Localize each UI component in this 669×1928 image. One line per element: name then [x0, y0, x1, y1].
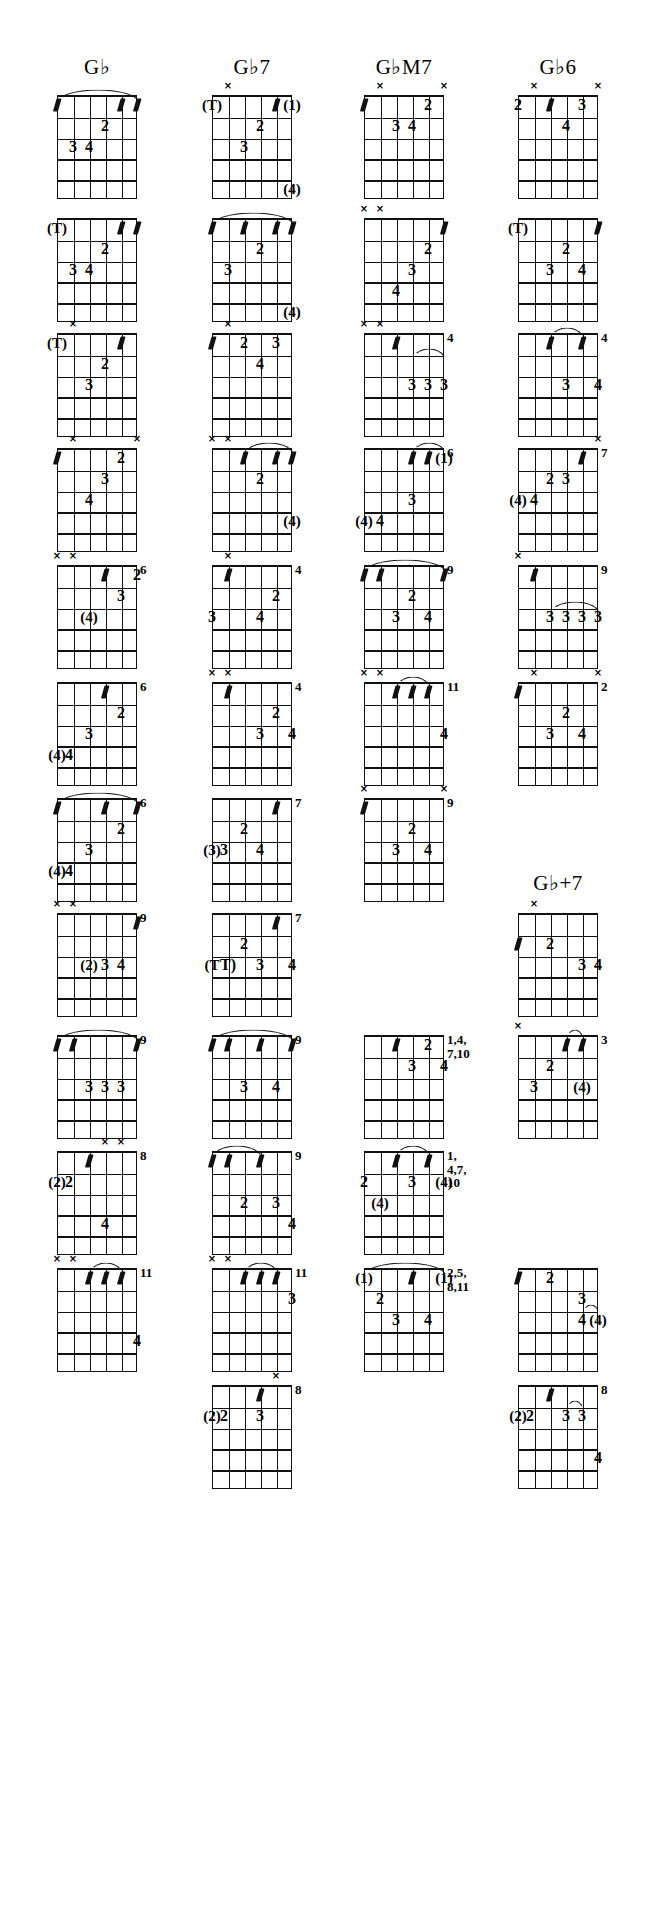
chord-diagram[interactable]: ×23(4)3 — [518, 1035, 598, 1139]
finger-marker: 4 — [392, 283, 400, 299]
barre-arc — [364, 560, 446, 573]
muted-string-icon: × — [117, 1137, 125, 1147]
muted-string-icon: × — [101, 1137, 109, 1147]
finger-marker: (T) — [47, 336, 67, 351]
chord-diagram[interactable]: ××234 — [364, 218, 444, 322]
barre-arc — [212, 213, 294, 226]
chord-diagram[interactable]: 23(4)46 — [57, 682, 137, 786]
chord-diagram[interactable]: ××3334 — [364, 333, 444, 437]
finger-marker: 4 — [288, 1216, 296, 1232]
finger-marker: 2 — [101, 241, 109, 257]
chord-diagram[interactable]: ×33339 — [518, 565, 598, 669]
fret-position-label: 11 — [140, 1266, 152, 1280]
chord-diagram[interactable]: ××23(4)6 — [57, 565, 137, 669]
finger-marker: 3 — [85, 1079, 93, 1095]
finger-marker: 2 — [562, 241, 570, 257]
chord-diagram[interactable]: (T)234 — [57, 218, 137, 322]
finger-marker: (3) — [203, 843, 221, 858]
chord-heading-gb6: G♭6 — [518, 55, 598, 80]
muted-string-icon: × — [69, 319, 77, 329]
chord-diagram[interactable]: (1)3(4)46 — [364, 448, 444, 552]
chord-diagram[interactable]: ××234 — [364, 95, 444, 199]
finger-marker: 2 — [424, 1037, 432, 1053]
chord-diagram[interactable]: 344 — [518, 333, 598, 437]
finger-marker: 3 — [69, 139, 77, 155]
chord-diagram[interactable]: ×2344 — [212, 565, 292, 669]
finger-marker: 2 — [272, 588, 280, 604]
chord-diagram[interactable]: ××234 — [518, 95, 598, 199]
finger-marker: 3 — [117, 588, 125, 604]
fretboard-grid — [57, 798, 137, 902]
chord-diagram[interactable]: ××411 — [364, 682, 444, 786]
chord-diagram[interactable]: 2349 — [364, 565, 444, 669]
chord-diagram[interactable]: ××2349 — [364, 798, 444, 902]
chord-diagram[interactable]: ××2(4) — [212, 448, 292, 552]
chord-diagram[interactable]: (1)(1)2342,5, 8,11 — [364, 1268, 444, 1372]
chord-diagram[interactable]: ×(2)238 — [212, 1385, 292, 1489]
chord-diagram[interactable]: ×23(4)47 — [518, 448, 598, 552]
muted-string-icon: × — [360, 668, 368, 678]
finger-marker: 3 — [240, 139, 248, 155]
chord-diagram[interactable]: 2(3)347 — [212, 798, 292, 902]
chord-diagram[interactable]: ×234 — [212, 333, 292, 437]
fret-position-label: 1, 4,7, 10 — [447, 1149, 467, 1190]
barre-arc — [212, 1146, 262, 1159]
chord-diagram[interactable]: ××311 — [212, 1268, 292, 1372]
chord-diagram[interactable]: (T)234 — [518, 218, 598, 322]
finger-marker: 4 — [85, 262, 93, 278]
muted-string-icon: × — [224, 434, 232, 444]
muted-string-icon: × — [208, 668, 216, 678]
chord-diagram[interactable]: 234(4) — [518, 1268, 598, 1372]
chord-diagram[interactable]: 3339 — [57, 1035, 137, 1139]
muted-string-icon: × — [69, 1254, 77, 1264]
chord-diagram[interactable]: ××411 — [57, 1268, 137, 1372]
finger-marker: 2 — [240, 936, 248, 952]
chord-diagram[interactable]: 2349 — [212, 1151, 292, 1255]
finger-marker: 3 — [546, 609, 554, 625]
finger-marker: 3 — [408, 1058, 416, 1074]
chord-diagram[interactable]: ××2342 — [518, 682, 598, 786]
chord-diagram[interactable]: 349 — [212, 1035, 292, 1139]
chord-diagram[interactable]: ××234 — [57, 448, 137, 552]
chord-heading-gb: G♭ — [57, 55, 137, 80]
fret-position-label: 9 — [140, 911, 147, 925]
muted-string-icon: × — [208, 434, 216, 444]
chord-diagram[interactable]: ××(2)248 — [57, 1151, 137, 1255]
finger-marker: 3 — [578, 1291, 586, 1307]
chord-diagram[interactable]: ×234 — [518, 913, 598, 1017]
fretboard-grid — [57, 1151, 137, 1255]
chord-diagram[interactable]: ××(2)349 — [57, 913, 137, 1017]
fret-position-label: 6 — [447, 446, 454, 460]
chord-diagram[interactable]: 23(4) — [212, 218, 292, 322]
chord-diagram[interactable]: (2)23348 — [518, 1385, 598, 1489]
finger-marker: 3 — [562, 1408, 570, 1424]
fret-position-label: 8 — [140, 1149, 147, 1163]
chord-heading-gb7: G♭7 — [212, 55, 292, 80]
fretboard-grid — [57, 1268, 137, 1372]
barre-arc — [57, 793, 139, 806]
fretboard-grid — [364, 448, 444, 552]
chord-diagram[interactable]: ×(T)23 — [57, 333, 137, 437]
muted-string-icon: × — [594, 668, 602, 678]
fret-position-label: 9 — [447, 796, 454, 810]
muted-string-icon: × — [594, 81, 602, 91]
muted-string-icon: × — [360, 204, 368, 214]
chord-diagram[interactable]: 2341,4, 7,10 — [364, 1035, 444, 1139]
chord-diagram[interactable]: 23(4)46 — [57, 798, 137, 902]
fret-position-label: 2,5, 8,11 — [447, 1266, 469, 1293]
finger-marker: 3 — [220, 842, 228, 858]
chord-diagram[interactable]: 234 — [57, 95, 137, 199]
finger-marker: 2 — [546, 936, 554, 952]
muted-string-icon: × — [530, 668, 538, 678]
fret-position-label: 4 — [447, 331, 454, 345]
finger-marker: 2 — [272, 705, 280, 721]
finger-marker: 2 — [408, 588, 416, 604]
chord-diagram[interactable]: ××2344 — [212, 682, 292, 786]
fretboard-grid — [57, 448, 137, 552]
muted-string-icon: × — [53, 1254, 61, 1264]
chord-diagram[interactable]: 2(TT)347 — [212, 913, 292, 1017]
finger-marker: 3 — [578, 609, 586, 625]
chord-diagram[interactable]: ×(T)(1)23(4) — [212, 95, 292, 199]
chord-diagram[interactable]: 23(4)(4)1, 4,7, 10 — [364, 1151, 444, 1255]
finger-marker: 2 — [101, 118, 109, 134]
